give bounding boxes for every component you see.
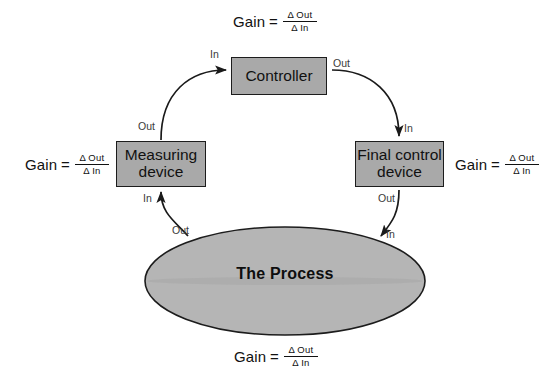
gain-formula-controller: Gain = Δ Out Δ In (233, 10, 317, 32)
port-label-process-in: In (386, 228, 395, 240)
gain-label-text: Gain (234, 348, 266, 365)
node-process-label: The Process (145, 265, 425, 283)
connector-measuring-to-controller (161, 70, 226, 140)
gain-numerator: Δ Out (507, 153, 536, 163)
gain-denominator: Δ In (81, 166, 102, 176)
connector-controller-to-final (332, 70, 399, 136)
gain-numerator: Δ Out (285, 10, 314, 20)
node-measuring-device[interactable]: Measuring device (116, 141, 206, 187)
node-final-control-device-line2: device (377, 163, 422, 180)
port-label-measuring-out: Out (138, 120, 155, 132)
port-label-measuring-in: In (143, 192, 152, 204)
port-label-final-in: In (404, 122, 413, 134)
port-label-final-out: Out (378, 192, 395, 204)
gain-equals-sign: = (269, 13, 278, 30)
gain-denominator: Δ In (290, 358, 311, 368)
node-measuring-device-line1: Measuring (125, 146, 197, 163)
node-controller[interactable]: Controller (231, 57, 327, 95)
node-final-control-device-label: Final control device (357, 147, 441, 180)
gain-equals-sign: = (270, 348, 279, 365)
gain-fraction: Δ Out Δ In (284, 345, 318, 367)
gain-numerator: Δ Out (286, 345, 315, 355)
gain-formula-process: Gain = Δ Out Δ In (234, 345, 318, 367)
gain-fraction: Δ Out Δ In (75, 153, 109, 175)
port-label-controller-out: Out (333, 57, 350, 69)
gain-label-text: Gain (455, 156, 487, 173)
port-label-process-out: Out (172, 224, 189, 236)
node-final-control-device-line1: Final control (357, 146, 441, 163)
gain-fraction: Δ Out Δ In (505, 153, 539, 175)
gain-denominator: Δ In (289, 23, 310, 33)
gain-label-text: Gain (233, 13, 265, 30)
control-loop-diagram: Controller Measuring device Final contro… (0, 0, 551, 377)
gain-equals-sign: = (491, 156, 500, 173)
node-controller-label: Controller (245, 68, 312, 85)
node-measuring-device-label: Measuring device (125, 147, 197, 180)
gain-equals-sign: = (61, 156, 70, 173)
gain-denominator: Δ In (511, 166, 532, 176)
gain-fraction: Δ Out Δ In (283, 10, 317, 32)
node-final-control-device[interactable]: Final control device (355, 141, 444, 187)
node-measuring-device-line2: device (139, 163, 184, 180)
port-label-controller-in: In (210, 48, 219, 60)
gain-label-text: Gain (25, 156, 57, 173)
gain-numerator: Δ Out (77, 153, 106, 163)
gain-formula-measuring-device: Gain = Δ Out Δ In (25, 153, 109, 175)
gain-formula-final-control-device: Gain = Δ Out Δ In (455, 153, 539, 175)
